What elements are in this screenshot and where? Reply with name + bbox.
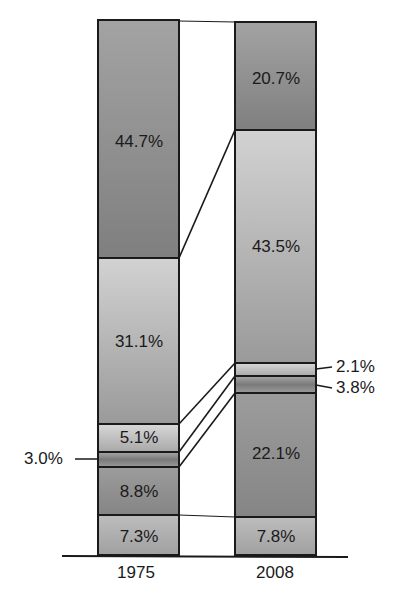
connector-top-frame [179,21,235,22]
label-2008-7-8: 7.8% [257,527,296,546]
label-2008-22-1: 22.1% [252,444,300,463]
bar-2008-segment-3-8 [235,376,316,393]
label-1975-8-8: 8.8% [120,482,159,501]
bar-2008-segment-2-1 [235,363,316,376]
label-1975-5-1: 5.1% [120,428,159,447]
connector-7-3-to-7-8 [179,515,235,517]
leader-2-1 [316,367,332,369]
connector-31-1-to-43-5 [179,130,235,258]
label-2008-43-5: 43.5% [252,237,300,256]
bar-1975 [98,20,179,555]
label-1975-3-0: 3.0% [24,449,63,468]
label-1975-44-7: 44.7% [115,132,163,151]
label-2008-20-7: 20.7% [252,69,300,88]
label-2008-2-1: 2.1% [336,357,375,376]
category-label-2008: 2008 [256,563,294,582]
connector-lines [179,21,235,517]
connector-8-8-to-22-1 [179,393,235,467]
leader-3-8 [316,385,332,388]
label-1975-31-1: 31.1% [115,332,163,351]
bar-1975-segment-3-0 [98,452,179,467]
label-2008-3-8: 3.8% [336,378,375,397]
bar-2008 [235,22,316,555]
category-label-1975: 1975 [117,563,155,582]
x-axis-baseline [62,556,348,557]
label-1975-7-3: 7.3% [120,527,159,546]
stacked-bar-chart: 44.7% 31.1% 5.1% 3.0% 8.8% 7.3% 20.7% 43… [0,0,410,591]
